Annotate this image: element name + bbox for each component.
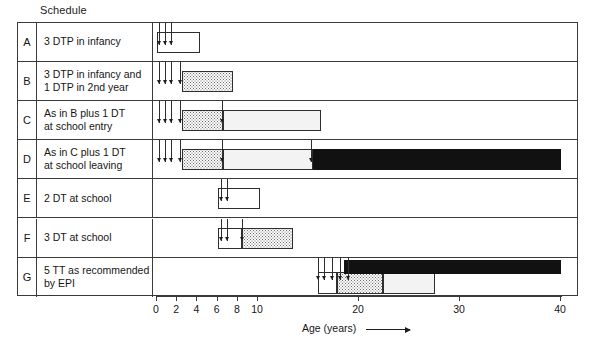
- axis-tick: [176, 296, 177, 301]
- timeline-bar-dots: [242, 228, 294, 249]
- row-label: 3 DTP in infancy: [37, 23, 153, 61]
- row-letter-f: F: [18, 219, 37, 257]
- dose-arrow-head-icon: [225, 197, 229, 201]
- axis-tick-label: 20: [352, 303, 364, 315]
- row-timeline: [153, 101, 577, 139]
- row-label-line: at school entry: [44, 120, 152, 134]
- dose-arrow-head-icon: [219, 237, 223, 241]
- dose-arrow-head-icon: [157, 158, 161, 162]
- timeline-bar-dots: [182, 71, 233, 92]
- dose-arrow-head-icon: [178, 80, 182, 84]
- axis-tick: [560, 296, 561, 301]
- axis-tick: [257, 296, 258, 301]
- axis-tick: [358, 296, 359, 301]
- table-row: E2 DT at school: [18, 179, 577, 218]
- row-timeline: [153, 179, 577, 217]
- axis-tick-label: 10: [251, 303, 263, 315]
- table-row: CAs in B plus 1 DTat school entry: [18, 101, 577, 140]
- timeline-bar-black: [344, 260, 561, 274]
- table-row: DAs in C plus 1 DTat school leaving: [18, 140, 577, 179]
- row-timeline: [153, 23, 577, 61]
- row-letter-c: C: [18, 101, 37, 139]
- dose-arrow-head-icon: [163, 41, 167, 45]
- axis-tick-label: 6: [214, 303, 220, 315]
- dose-arrow-head-icon: [240, 237, 244, 241]
- row-label-line: 5 TT as recommended: [44, 264, 152, 278]
- dose-arrow-head-icon: [169, 119, 173, 123]
- dose-arrow-head-icon: [225, 237, 229, 241]
- dose-arrow-head-icon: [157, 41, 161, 45]
- row-label-line: 2 DT at school: [44, 192, 152, 206]
- table-row: A3 DTP in infancy: [18, 23, 577, 62]
- dose-arrow-head-icon: [330, 276, 334, 280]
- dose-arrow-head-icon: [163, 119, 167, 123]
- row-letter-a: A: [18, 23, 37, 61]
- dose-arrow-head-icon: [163, 80, 167, 84]
- row-letter-e: E: [18, 179, 37, 217]
- timeline-bar-lightdots: [223, 149, 313, 170]
- axis-tick: [156, 296, 157, 301]
- dose-arrow-head-icon: [219, 197, 223, 201]
- table-row: F3 DT at school: [18, 219, 577, 258]
- timeline-bar-black: [313, 149, 561, 170]
- dose-arrow-head-icon: [178, 119, 182, 123]
- row-timeline: [153, 140, 577, 178]
- row-label: 5 TT as recommendedby EPI: [37, 258, 153, 297]
- axis-tick: [217, 296, 218, 301]
- timeline-bar-lightdots: [223, 110, 321, 131]
- row-letter-d: D: [18, 140, 37, 178]
- axis-tick-label: 8: [234, 303, 240, 315]
- axis-direction-arrow-icon: [366, 329, 410, 330]
- row-label-line: 3 DT at school: [44, 231, 152, 245]
- row-label: 3 DTP in infancy and1 DTP in 2nd year: [37, 62, 153, 100]
- dose-arrow-head-icon: [157, 119, 161, 123]
- row-letter-g: G: [18, 258, 37, 297]
- dose-arrow-head-icon: [220, 158, 224, 162]
- timeline-bar-dots: [182, 110, 222, 131]
- row-letter-b: B: [18, 62, 37, 100]
- timeline-bar-dots: [337, 272, 383, 294]
- axis-tick-label: 30: [453, 303, 465, 315]
- schedule-table: A3 DTP in infancyB3 DTP in infancy and1 …: [17, 22, 578, 296]
- dose-arrow-head-icon: [169, 158, 173, 162]
- axis-title: Age (years): [302, 322, 356, 334]
- row-label: 3 DT at school: [37, 219, 153, 257]
- axis-tick-label: 4: [193, 303, 199, 315]
- row-label-line: by EPI: [44, 277, 152, 291]
- dose-arrow-head-icon: [220, 119, 224, 123]
- row-label: As in B plus 1 DTat school entry: [37, 101, 153, 139]
- row-timeline: [153, 258, 577, 297]
- row-label-line: 3 DTP in infancy: [44, 35, 152, 49]
- page-title: Schedule: [40, 4, 87, 16]
- axis-tick-label: 40: [554, 303, 566, 315]
- timeline-bar-lightdots: [383, 272, 435, 294]
- row-label-line: 3 DTP in infancy and: [44, 68, 152, 82]
- dose-arrow-head-icon: [169, 80, 173, 84]
- table-row: B3 DTP in infancy and1 DTP in 2nd year: [18, 62, 577, 101]
- row-label-line: As in B plus 1 DT: [44, 107, 152, 121]
- axis-tick: [237, 296, 238, 301]
- row-label-line: at school leaving: [44, 159, 152, 173]
- dose-arrow-head-icon: [346, 276, 350, 280]
- dose-arrow-head-icon: [169, 41, 173, 45]
- dose-arrow-head-icon: [178, 158, 182, 162]
- dose-arrow-head-icon: [157, 80, 161, 84]
- row-label: 2 DT at school: [37, 179, 153, 217]
- timeline-bar-white: [318, 272, 337, 294]
- dose-arrow-head-icon: [322, 276, 326, 280]
- table-row: G5 TT as recommendedby EPI: [18, 258, 577, 297]
- timeline-bar-dots: [182, 149, 222, 170]
- axis-tick-label: 0: [153, 303, 159, 315]
- dose-arrow-head-icon: [316, 276, 320, 280]
- axis-tick: [196, 296, 197, 301]
- row-timeline: [153, 219, 577, 257]
- axis-tick: [459, 296, 460, 301]
- dose-arrow-head-icon: [163, 158, 167, 162]
- row-label: As in C plus 1 DTat school leaving: [37, 140, 153, 178]
- row-label-line: As in C plus 1 DT: [44, 146, 152, 160]
- axis-tick-label: 2: [173, 303, 179, 315]
- row-timeline: [153, 62, 577, 100]
- dose-arrow-head-icon: [338, 276, 342, 280]
- dose-arrow-head-icon: [309, 158, 313, 162]
- row-label-line: 1 DTP in 2nd year: [44, 81, 152, 95]
